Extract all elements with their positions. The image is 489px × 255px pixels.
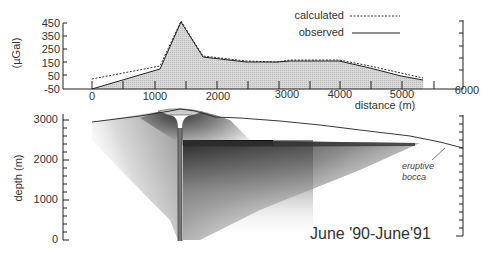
bocca-pointer [432, 148, 445, 160]
observed-area [92, 22, 423, 89]
section-diagram [63, 109, 463, 241]
top-y-ticks [63, 23, 67, 75]
gravity-chart [63, 16, 463, 89]
depth-ticks [63, 120, 69, 240]
figure [0, 0, 489, 255]
legend [350, 16, 400, 33]
